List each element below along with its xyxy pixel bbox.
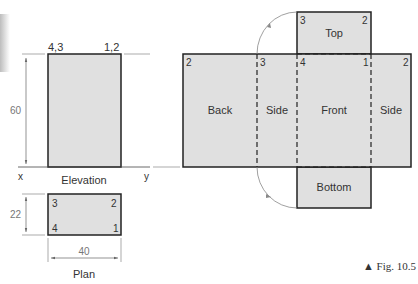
development-diagram: 60 4,3 1,2 x y Elevation 22 40 3 2 4 1 P… — [0, 0, 418, 284]
plan-view — [22, 194, 121, 262]
plan-corner-1: 1 — [113, 223, 119, 234]
plan-title: Plan — [73, 268, 95, 280]
plan-corner-2: 2 — [111, 198, 117, 209]
elevation-title: Elevation — [61, 174, 106, 186]
plan-corner-4: 4 — [52, 223, 58, 234]
elevation-corner-right: 1,2 — [104, 41, 119, 53]
strip-point-1: 1 — [363, 57, 369, 68]
xy-label-x: x — [18, 171, 23, 182]
face-label-back: Back — [208, 104, 233, 116]
depth-dim-label: 22 — [10, 209, 22, 220]
strip-point-2-right: 2 — [403, 57, 409, 68]
face-label-side-right: Side — [380, 104, 402, 116]
strip-point-2-left: 2 — [186, 57, 192, 68]
elevation-rect — [48, 54, 121, 167]
face-label-top: Top — [325, 27, 343, 39]
elevation-corner-left: 4,3 — [48, 41, 63, 53]
rotation-arc-top — [257, 12, 297, 54]
face-label-side-left: Side — [266, 104, 288, 116]
top-point-2: 2 — [362, 15, 368, 26]
face-label-front: Front — [321, 104, 347, 116]
figure-caption: ▲ Fig. 10.5 — [363, 260, 417, 272]
rotation-arc-bottom — [257, 167, 297, 208]
strip-point-3: 3 — [260, 57, 266, 68]
elevation-view — [18, 54, 180, 167]
xy-label-y: y — [144, 171, 149, 182]
top-point-3: 3 — [300, 15, 306, 26]
strip-point-4: 4 — [300, 57, 306, 68]
height-dim-label: 60 — [10, 105, 22, 116]
face-label-bottom: Bottom — [317, 181, 352, 193]
width-dim-label: 40 — [78, 246, 90, 257]
plan-corner-3: 3 — [52, 198, 58, 209]
